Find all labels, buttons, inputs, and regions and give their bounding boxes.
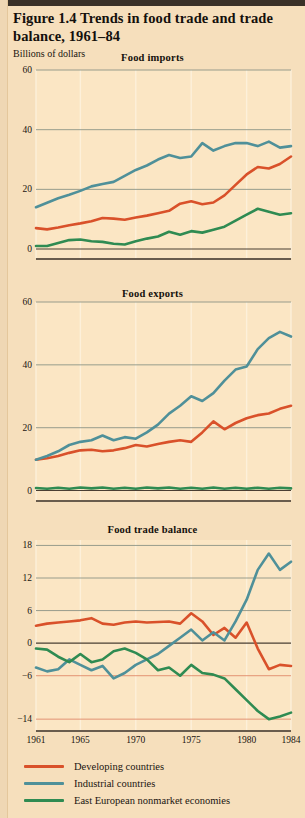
y-tick-label: 40 [23, 360, 33, 370]
plot-area-1 [36, 70, 297, 264]
legend-swatch-icon [24, 765, 64, 769]
plot-background [36, 70, 291, 258]
legend-item-2: East European nonmarket economies [24, 792, 304, 809]
x-tick-label: 1965 [71, 735, 90, 745]
y-tick-label: 0 [27, 486, 32, 496]
legend-swatch-icon [24, 782, 64, 786]
y-tick-label: 0 [27, 638, 32, 648]
y-tick-label: 60 [23, 65, 33, 75]
chart-title-2: Food exports [0, 288, 305, 299]
plot-area-3 [36, 540, 297, 736]
x-tick-label: 1970 [126, 735, 145, 745]
y-tick-label: 12 [23, 573, 33, 583]
y-tick-label: 0 [27, 244, 32, 254]
x-tick-label: 1984 [282, 735, 301, 745]
legend-item-0: Developing countries [24, 758, 304, 775]
x-tick-label: 1961 [27, 735, 46, 745]
y-tick-label: −6 [22, 671, 32, 681]
y-tick-label: 20 [23, 184, 33, 194]
plot-area-2 [36, 302, 297, 506]
y-tick-label: −14 [17, 714, 32, 724]
legend-label: Developing countries [74, 761, 164, 772]
x-tick-label: 1975 [182, 735, 201, 745]
y-tick-label: 18 [23, 540, 33, 550]
y-tick-label: 60 [23, 297, 33, 307]
y-axis-labels-3: −14−6061218 [2, 540, 32, 730]
chart-legend: Developing countriesIndustrial countries… [24, 758, 304, 809]
y-axis-labels-2: 0204060 [2, 302, 32, 500]
top-rule [0, 0, 305, 6]
legend-label: Industrial countries [74, 778, 155, 789]
chart-title-3: Food trade balance [0, 524, 305, 535]
series-line-east_european [36, 487, 291, 488]
y-axis-labels-1: 0204060 [2, 70, 32, 258]
chart-title-1: Food imports [0, 52, 305, 63]
x-tick-label: 1980 [237, 735, 256, 745]
legend-swatch-icon [24, 799, 64, 803]
figure-title: Figure 1.4 Trends in food trade and trad… [13, 10, 295, 45]
y-tick-label: 40 [23, 125, 33, 135]
legend-label: East European nonmarket economies [74, 795, 230, 806]
legend-item-1: Industrial countries [24, 775, 304, 792]
plot-background [36, 302, 291, 500]
figure-container: Figure 1.4 Trends in food trade and trad… [0, 0, 305, 818]
y-tick-label: 20 [23, 423, 33, 433]
y-tick-label: 6 [27, 606, 32, 616]
